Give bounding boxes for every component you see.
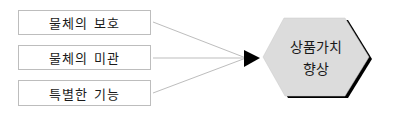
input-box-special-function: 특별한 기능 [18, 80, 151, 106]
connector-line-protection [153, 22, 246, 58]
input-label: 물체의 미관 [49, 48, 119, 67]
target-label-line2: 향상 [280, 58, 352, 80]
input-label: 물체의 보호 [49, 13, 119, 32]
input-label: 특별한 기능 [49, 84, 119, 103]
target-label-line1: 상품가치 [280, 36, 352, 58]
connector-line-special-function [153, 58, 246, 93]
input-box-aesthetics: 물체의 미관 [18, 45, 151, 70]
diagram-canvas: 물체의 보호 물체의 미관 특별한 기능 상품가치 향상 [0, 0, 394, 113]
arrowhead-icon [244, 50, 260, 67]
input-box-protection: 물체의 보호 [18, 10, 151, 35]
